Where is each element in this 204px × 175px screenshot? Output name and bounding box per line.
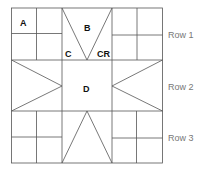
quilt-block-diagram: A B C CR D Row 1 Row 2 Row 3: [0, 0, 204, 175]
row-label-2: Row 2: [168, 82, 194, 92]
patch-label-d: D: [83, 84, 90, 94]
patch-label-c: C: [65, 49, 72, 59]
goose-bottom: [62, 111, 112, 163]
patch-label-cr: CR: [97, 49, 110, 59]
patch-label-a: A: [20, 18, 27, 28]
goose-left: [12, 60, 63, 111]
row-label-3: Row 3: [168, 133, 194, 143]
patch-label-b: B: [84, 23, 91, 33]
goose-right: [112, 60, 163, 111]
row-label-1: Row 1: [168, 30, 194, 40]
